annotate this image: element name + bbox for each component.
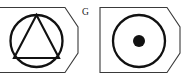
technical-symbol-pair-svg: G (0, 0, 190, 79)
figure-canvas: G (0, 0, 190, 79)
left-tag-outline (0, 8, 78, 73)
right-symbol-center-dot-icon (133, 35, 145, 47)
left-tag-label-g: G (82, 7, 89, 17)
symbol-tag-right[interactable] (100, 8, 180, 73)
symbol-tag-left[interactable] (0, 8, 78, 73)
